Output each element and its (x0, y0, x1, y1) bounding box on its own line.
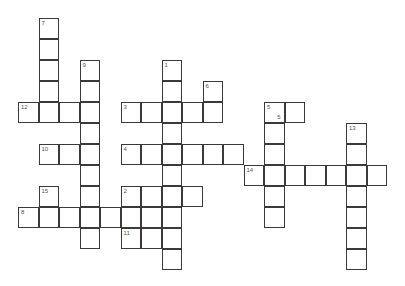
crossword-cell[interactable]: 1 (162, 60, 183, 81)
crossword-cell[interactable] (39, 81, 60, 102)
crossword-cell[interactable] (59, 144, 80, 165)
crossword-cell[interactable] (80, 228, 101, 249)
crossword-cell[interactable]: 7 (39, 18, 60, 39)
crossword-cell[interactable] (203, 102, 224, 123)
crossword-cell[interactable] (203, 144, 224, 165)
crossword-cell[interactable]: 14 (244, 165, 265, 186)
crossword-cell[interactable] (59, 102, 80, 123)
crossword-cell[interactable] (346, 249, 367, 270)
crossword-cell[interactable] (39, 102, 60, 123)
crossword-cell[interactable] (162, 102, 183, 123)
crossword-grid: 7912101581364211551413 (0, 0, 405, 286)
crossword-cell[interactable] (223, 144, 244, 165)
crossword-cell[interactable]: 13 (346, 123, 367, 144)
crossword-cell[interactable] (346, 165, 367, 186)
crossword-cell[interactable] (141, 228, 162, 249)
crossword-cell[interactable]: 12 (18, 102, 39, 123)
crossword-cell[interactable] (162, 207, 183, 228)
clue-number-secondary: 5 (277, 114, 280, 120)
clue-number: 3 (124, 104, 127, 110)
crossword-cell[interactable]: 9 (80, 60, 101, 81)
crossword-cell[interactable] (100, 207, 121, 228)
crossword-cell[interactable]: 11 (121, 228, 142, 249)
clue-number: 10 (42, 146, 49, 152)
crossword-cell[interactable] (162, 249, 183, 270)
clue-number: 7 (42, 20, 45, 26)
clue-number: 8 (21, 209, 24, 215)
crossword-cell[interactable] (141, 186, 162, 207)
crossword-cell[interactable] (80, 165, 101, 186)
crossword-cell[interactable] (346, 186, 367, 207)
crossword-cell[interactable] (346, 207, 367, 228)
crossword-cell[interactable] (80, 123, 101, 144)
crossword-cell[interactable] (141, 144, 162, 165)
crossword-cell[interactable] (264, 165, 285, 186)
crossword-cell[interactable]: 6 (203, 81, 224, 102)
crossword-cell[interactable] (182, 186, 203, 207)
crossword-cell[interactable] (141, 207, 162, 228)
crossword-cell[interactable] (162, 81, 183, 102)
clue-number: 15 (42, 188, 49, 194)
crossword-cell[interactable]: 15 (39, 186, 60, 207)
crossword-cell[interactable] (80, 144, 101, 165)
crossword-cell[interactable] (285, 102, 306, 123)
crossword-cell[interactable] (182, 144, 203, 165)
crossword-cell[interactable]: 55 (264, 102, 285, 123)
crossword-cell[interactable] (264, 123, 285, 144)
crossword-cell[interactable]: 2 (121, 186, 142, 207)
clue-number: 11 (124, 230, 130, 236)
crossword-cell[interactable] (39, 207, 60, 228)
crossword-cell[interactable] (326, 165, 347, 186)
crossword-cell[interactable] (162, 228, 183, 249)
crossword-cell[interactable] (305, 165, 326, 186)
crossword-cell[interactable] (162, 165, 183, 186)
crossword-cell[interactable] (39, 60, 60, 81)
crossword-cell[interactable] (264, 207, 285, 228)
crossword-cell[interactable] (264, 186, 285, 207)
crossword-cell[interactable] (141, 102, 162, 123)
clue-number: 2 (124, 188, 127, 194)
clue-number: 5 (267, 104, 270, 110)
crossword-cell[interactable]: 3 (121, 102, 142, 123)
crossword-cell[interactable] (264, 144, 285, 165)
crossword-cell[interactable]: 10 (39, 144, 60, 165)
crossword-cell[interactable] (162, 123, 183, 144)
crossword-cell[interactable]: 4 (121, 144, 142, 165)
clue-number: 6 (206, 83, 209, 89)
clue-number: 12 (21, 104, 28, 110)
crossword-cell[interactable] (39, 39, 60, 60)
crossword-cell[interactable] (162, 144, 183, 165)
crossword-cell[interactable] (121, 207, 142, 228)
crossword-cell[interactable]: 8 (18, 207, 39, 228)
crossword-cell[interactable] (346, 144, 367, 165)
crossword-cell[interactable] (367, 165, 388, 186)
crossword-cell[interactable] (162, 186, 183, 207)
crossword-cell[interactable] (80, 102, 101, 123)
crossword-cell[interactable] (182, 102, 203, 123)
crossword-cell[interactable] (346, 228, 367, 249)
crossword-cell[interactable] (80, 81, 101, 102)
crossword-cell[interactable] (80, 207, 101, 228)
crossword-cell[interactable] (285, 165, 306, 186)
clue-number: 13 (349, 125, 356, 131)
clue-number: 14 (247, 167, 254, 173)
clue-number: 4 (124, 146, 127, 152)
crossword-cell[interactable] (80, 186, 101, 207)
clue-number: 1 (165, 62, 168, 68)
crossword-cell[interactable] (59, 207, 80, 228)
clue-number: 9 (83, 62, 86, 68)
